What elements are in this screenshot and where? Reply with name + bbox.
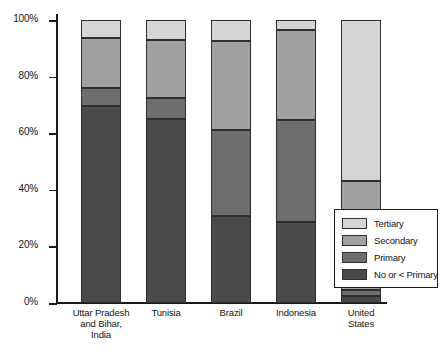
legend-item: No or < Primary [342, 268, 431, 280]
legend-label: No or < Primary [374, 269, 438, 280]
legend-item: Tertiary [342, 217, 431, 229]
bar-segment-primary [146, 98, 186, 119]
legend-swatch [342, 252, 367, 263]
bar-segment-secondary [276, 30, 316, 121]
legend-label: Secondary [374, 235, 418, 246]
x-axis-label-line: United [313, 307, 409, 318]
x-axis-label-line: India [53, 329, 149, 340]
legend-label: Primary [374, 252, 405, 263]
bar-segment-tertiary [81, 20, 121, 38]
bar-uttar-pradesh-and-bihar-india [81, 20, 121, 303]
y-axis-tick-label: 0% [24, 296, 38, 307]
y-axis-tick-label: 60% [19, 126, 38, 137]
y-axis-tick-label: 80% [19, 70, 38, 81]
legend-item: Secondary [342, 234, 431, 246]
x-axis-label: UnitedStates [313, 307, 409, 329]
y-axis-tick: 20% [49, 246, 57, 248]
bar-segment-primary [341, 290, 381, 296]
bar-segment-no-or-primary [211, 216, 251, 303]
legend-swatch [342, 235, 367, 246]
bar-brazil [211, 20, 251, 303]
bar-segment-primary [276, 120, 316, 222]
bar-segment-secondary [211, 41, 251, 130]
legend-swatch [342, 269, 367, 280]
y-axis-tick: 0% [49, 303, 57, 305]
bar-segment-no-or-primary [81, 106, 121, 303]
bar-segment-tertiary [211, 20, 251, 41]
bar-segment-tertiary [341, 20, 381, 181]
bar-segment-secondary [81, 38, 121, 88]
chart-legend: TertiarySecondaryPrimaryNo or < Primary [334, 209, 438, 288]
y-axis-tick: 40% [49, 190, 57, 192]
x-axis-label-line: States [313, 318, 409, 329]
y-axis-tick: 80% [49, 77, 57, 79]
y-axis-tick: 100% [49, 20, 57, 22]
stacked-bar-chart: 0%20%40%60%80%100% TertiarySecondaryPrim… [0, 0, 448, 353]
legend-item: Primary [342, 251, 431, 263]
bar-tunisia [146, 20, 186, 303]
y-axis-tick-label: 40% [19, 183, 38, 194]
y-axis-tick-label: 20% [19, 239, 38, 250]
legend-swatch [342, 218, 367, 229]
legend-label: Tertiary [374, 218, 404, 229]
bar-segment-tertiary [146, 20, 186, 40]
bar-segment-no-or-primary [341, 296, 381, 303]
x-axis-label-line: and Bihar, [53, 318, 149, 329]
bar-segment-secondary [146, 40, 186, 98]
bar-segment-tertiary [276, 20, 316, 30]
bar-segment-no-or-primary [276, 222, 316, 303]
bar-segment-primary [81, 88, 121, 106]
bar-indonesia [276, 20, 316, 303]
bar-segment-primary [211, 130, 251, 216]
y-axis-tick: 60% [49, 133, 57, 135]
bar-segment-no-or-primary [146, 119, 186, 303]
y-axis-tick-label: 100% [13, 13, 38, 24]
